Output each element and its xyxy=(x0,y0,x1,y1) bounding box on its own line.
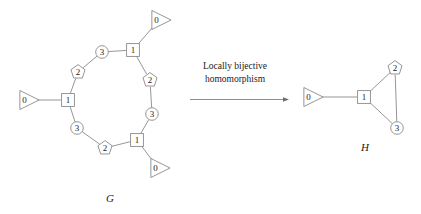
graph-g-edge xyxy=(136,56,146,74)
graph-g-edge xyxy=(83,56,97,68)
graph-g-node-pentagon-2: 2 xyxy=(98,141,112,154)
graph-g-node-triangle-0: 0 xyxy=(151,159,170,178)
graph-g-edge xyxy=(150,87,151,108)
arrow-head-icon xyxy=(283,97,289,102)
graph-g-edge xyxy=(70,78,75,93)
graph-g-node-circle-3: 3 xyxy=(71,122,84,135)
graph-h-name: H xyxy=(360,141,370,153)
graph-h-node-circle-3: 3 xyxy=(391,122,404,135)
graph-g-node-label: 0 xyxy=(153,163,158,173)
graph-h-node-label: 3 xyxy=(395,123,400,133)
graph-g-node-label: 0 xyxy=(22,95,27,105)
graph-h-edge xyxy=(369,73,390,93)
graph-h-edge xyxy=(395,75,397,122)
graph-g-node-square-1: 1 xyxy=(131,134,144,147)
graph-h-node-triangle-0: 0 xyxy=(304,88,323,107)
graph-g-node-label: 2 xyxy=(103,143,108,153)
graph-h-node-label: 2 xyxy=(393,63,398,73)
graph-g-node-label: 1 xyxy=(135,135,140,145)
graph-g-node-square-1: 1 xyxy=(127,44,140,57)
graph-g-name: G xyxy=(106,192,114,204)
graph-h-node-square-1: 1 xyxy=(358,91,371,104)
graph-g-node-label: 3 xyxy=(75,123,80,133)
mapping-caption: Locally bijective homomorphism xyxy=(183,60,287,86)
mapping-caption-line1: Locally bijective xyxy=(183,60,287,73)
graph-g-node-label: 1 xyxy=(131,45,136,55)
graph-g-node-triangle-0: 0 xyxy=(152,11,171,30)
graph-g-node-label: 2 xyxy=(76,67,81,77)
graph-g-node-pentagon-2: 2 xyxy=(143,73,157,86)
mapping-caption-line2: homomorphism xyxy=(183,73,287,86)
graph-g-node-label: 1 xyxy=(66,95,71,105)
graph-g-node-label: 3 xyxy=(150,109,155,119)
graph-g-node-square-1: 1 xyxy=(62,94,75,107)
figure-canvas: 012310231023 0123 G H Locally bijective … xyxy=(0,0,421,214)
graph-g-edge xyxy=(141,119,149,133)
graph-g-node-label: 3 xyxy=(100,47,105,57)
graph-h-node-label: 1 xyxy=(362,92,367,102)
graph-g-node-circle-3: 3 xyxy=(96,46,109,59)
graph-g-edge xyxy=(108,50,126,51)
graph-g-node-label: 0 xyxy=(154,15,159,25)
graph-g-edge xyxy=(112,142,131,147)
graph-h-node-label: 0 xyxy=(306,92,311,102)
graph-h-edge xyxy=(369,102,392,124)
diagram-svg: 012310231023 0123 G H xyxy=(0,0,421,214)
graph-g-node-label: 2 xyxy=(148,75,153,85)
graph-g-edge xyxy=(70,107,75,122)
graph-g-node-pentagon-2: 2 xyxy=(71,65,85,78)
graph-g-node-triangle-0: 0 xyxy=(20,91,39,110)
graph-g-nodes: 012310231023 xyxy=(20,11,171,178)
graph-g-edge xyxy=(138,26,154,44)
graph-g-node-circle-3: 3 xyxy=(146,108,159,121)
graph-g-edge xyxy=(82,132,99,144)
mapping-arrow xyxy=(190,97,289,102)
graph-h-node-pentagon-2: 2 xyxy=(388,61,402,74)
